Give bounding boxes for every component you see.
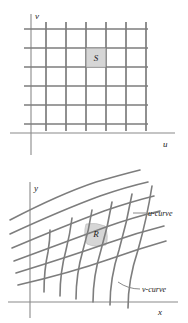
u-axis-label: u bbox=[163, 139, 168, 149]
v-curve bbox=[44, 230, 50, 292]
v-axis-label: v bbox=[35, 11, 39, 21]
u-curve bbox=[10, 182, 148, 234]
v-curve-label-text: v-curve bbox=[142, 285, 166, 294]
v-curve bbox=[76, 210, 92, 299]
u-curve-label-text: u-curve bbox=[148, 209, 173, 218]
xy-plane-panel: R y x u-curve v-curve bbox=[0, 160, 188, 323]
y-axis-label: y bbox=[33, 183, 38, 193]
u-curve bbox=[12, 196, 154, 248]
uv-axes bbox=[10, 14, 175, 155]
v-curve-label: v-curve bbox=[142, 285, 166, 294]
u-curve-label: u-curve bbox=[148, 209, 173, 218]
uv-grid bbox=[24, 22, 148, 131]
v-curve bbox=[93, 202, 112, 302]
xy-plane-svg: R y x u-curve v-curve bbox=[0, 160, 188, 323]
region-label-S: S bbox=[94, 53, 99, 63]
uv-plane-panel: S v u bbox=[0, 0, 188, 160]
u-curve bbox=[18, 241, 166, 285]
x-axis-label: x bbox=[157, 307, 162, 317]
uv-plane-svg: S v u bbox=[0, 0, 188, 160]
coordinate-transformation-figure: S v u bbox=[0, 0, 188, 323]
region-label-R: R bbox=[92, 229, 99, 239]
